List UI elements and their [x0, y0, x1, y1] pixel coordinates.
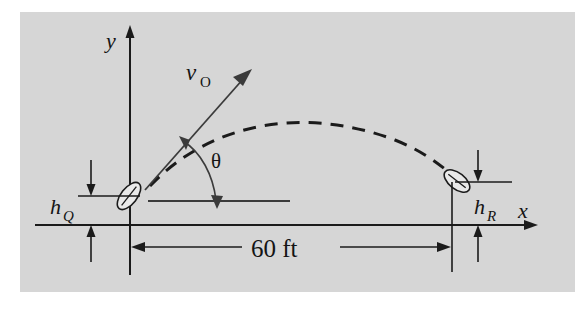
y-axis-label: y [104, 28, 116, 53]
height-right-label: h [474, 194, 485, 219]
height-right-subscript: R [486, 208, 496, 224]
theta-label: θ [211, 149, 221, 173]
velocity-subscript: O [200, 74, 211, 90]
velocity-label: v [186, 60, 197, 85]
range-label: 60 ft [251, 235, 298, 262]
height-left-subscript: Q [63, 208, 74, 224]
figure-root: y x v O θ h Q h R 60 ft [0, 0, 575, 310]
height-left-label: h [50, 194, 61, 219]
projectile-diagram-svg: y x v O θ h Q h R 60 ft [0, 0, 575, 310]
x-axis-label: x [517, 198, 528, 223]
